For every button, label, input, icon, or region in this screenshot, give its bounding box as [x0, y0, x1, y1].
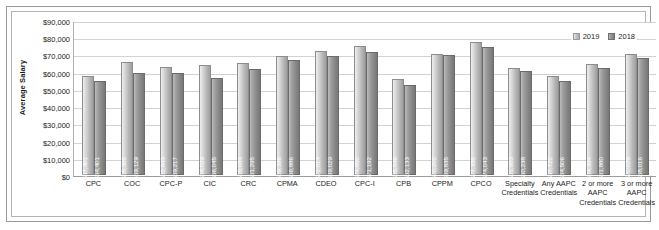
bar-2019[interactable]: $74,850: [354, 46, 366, 175]
x-axis-label: CPCO: [462, 179, 501, 188]
bar-2018[interactable]: $54,506: [559, 81, 571, 175]
bar-2018[interactable]: $69,029: [327, 56, 339, 175]
x-axis-label: 3 or more AAPC Credentials: [617, 179, 656, 207]
bar-2019[interactable]: $70,202: [431, 54, 443, 175]
bar-group: $74,850$71,192: [346, 22, 385, 175]
bar-group: $61,953$60,238: [501, 22, 540, 175]
bar-group: $62,843$59,217: [152, 22, 191, 175]
legend-label: 2018: [618, 32, 635, 41]
y-axis-title-text: Average Salary: [19, 59, 28, 114]
bar-2019[interactable]: $77,335: [470, 42, 482, 175]
bar-group: $69,396$66,886: [269, 22, 308, 175]
x-axis-label: CIC: [190, 179, 229, 188]
legend-label: 2019: [583, 32, 600, 41]
y-axis-tick: $20,000: [43, 138, 70, 147]
bar-2019[interactable]: $55,546: [392, 79, 404, 175]
legend-item-2018[interactable]: 2018: [608, 32, 635, 41]
bar-group: $55,546$52,133: [385, 22, 424, 175]
x-axis-label: CPMA: [268, 179, 307, 188]
y-axis-tick-labels: $90,000$80,000$70,000$60,000$50,000$40,0…: [28, 22, 72, 177]
bar-group: $77,335$74,043: [462, 22, 501, 175]
bar-group: $64,394$61,880: [579, 22, 618, 175]
bar-group: $57,301$54,401: [75, 22, 114, 175]
x-axis-label: 2 or more AAPC Credentials: [578, 179, 617, 207]
y-axis-tick: $80,000: [43, 35, 70, 44]
x-axis-label: CPB: [384, 179, 423, 188]
bar-2019[interactable]: $65,355: [121, 62, 133, 175]
bar-group: $72,014$69,029: [307, 22, 346, 175]
x-axis-label: Specialty Credentials: [500, 179, 539, 198]
legend-swatch-icon: [573, 33, 580, 40]
bar-group: $64,029$56,045: [191, 22, 230, 175]
y-axis-tick: $10,000: [43, 155, 70, 164]
bar-2019[interactable]: $64,394: [586, 64, 598, 175]
y-axis-tick: $50,000: [43, 86, 70, 95]
bar-2018[interactable]: $60,238: [520, 71, 532, 175]
bar-2019[interactable]: $61,953: [508, 68, 520, 175]
y-axis-tick: $60,000: [43, 69, 70, 78]
plot-area: $57,301$54,401$65,355$59,129$62,843$59,2…: [73, 22, 656, 177]
bar-2018[interactable]: $61,880: [598, 68, 610, 175]
bar-2018[interactable]: $52,133: [404, 85, 416, 175]
chart-inner-frame: Average Salary $90,000$80,000$70,000$60,…: [11, 11, 646, 217]
bar-2018[interactable]: $59,129: [133, 73, 145, 175]
bar-2019[interactable]: $65,084: [237, 63, 249, 175]
x-axis-label: CPC-P: [152, 179, 191, 188]
bar-2019[interactable]: $69,396: [276, 56, 288, 176]
bars-layer: $57,301$54,401$65,355$59,129$62,843$59,2…: [75, 22, 656, 175]
x-axis-category-labels: CPCCOCCPC-PCICCRCCPMACDEOCPC-ICPBCPPMCPC…: [74, 179, 656, 207]
x-axis-label: COC: [113, 179, 152, 188]
bar-2018[interactable]: $66,886: [288, 60, 300, 175]
y-axis-tick: $90,000: [43, 18, 70, 27]
x-axis-label: CPC: [74, 179, 113, 188]
bar-2019[interactable]: $64,029: [199, 65, 211, 175]
bar-group: $57,722$54,506: [540, 22, 579, 175]
bar-group: $70,202$69,835: [424, 22, 463, 175]
bar-group: $65,084$61,295: [230, 22, 269, 175]
bar-group: $65,355$59,129: [114, 22, 153, 175]
bar-2018[interactable]: $59,217: [172, 73, 184, 175]
bar-2018[interactable]: $56,045: [211, 78, 223, 175]
chart-legend: 20192018: [571, 31, 637, 42]
bar-2019[interactable]: $57,722: [547, 76, 559, 175]
y-axis-tick: $40,000: [43, 104, 70, 113]
bar-2019[interactable]: $57,301: [82, 76, 94, 175]
x-axis-label: CPC-I: [345, 179, 384, 188]
bar-chart: Average Salary $90,000$80,000$70,000$60,…: [12, 12, 645, 216]
bar-2019[interactable]: $62,843: [160, 67, 172, 175]
bar-2018[interactable]: $74,043: [482, 47, 494, 175]
y-axis-tick: $70,000: [43, 52, 70, 61]
x-axis-label: CRC: [229, 179, 268, 188]
y-axis-tick: $30,000: [43, 121, 70, 130]
bar-2018[interactable]: $71,192: [366, 52, 378, 175]
bar-2018[interactable]: $68,016: [637, 58, 649, 175]
bar-2018[interactable]: $61,295: [249, 69, 261, 175]
bar-2019[interactable]: $72,014: [315, 51, 327, 175]
legend-item-2019[interactable]: 2019: [573, 32, 600, 41]
legend-swatch-icon: [608, 33, 615, 40]
bar-2019[interactable]: $70,029: [625, 54, 637, 175]
bar-2018[interactable]: $54,401: [94, 81, 106, 175]
y-axis-tick: $0: [62, 173, 70, 182]
x-axis-label: CDEO: [307, 179, 346, 188]
chart-outer-frame: Average Salary $90,000$80,000$70,000$60,…: [6, 6, 651, 222]
bar-2018[interactable]: $69,835: [443, 55, 455, 175]
x-axis-label: CPPM: [423, 179, 462, 188]
x-axis-label: Any AAPC Credentials: [539, 179, 578, 198]
bar-group: $70,029$68,016: [617, 22, 656, 175]
